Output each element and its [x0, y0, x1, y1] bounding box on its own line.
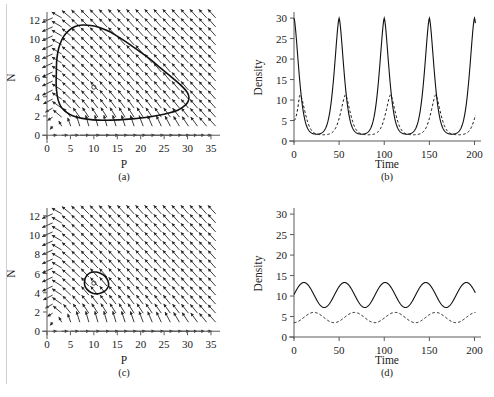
- xtick-label-b-3: 150: [421, 148, 438, 160]
- panel-caption-d: (d): [381, 367, 394, 379]
- yaxis-title-b: Density: [252, 59, 265, 95]
- xtick-label-a-7: 35: [205, 142, 217, 154]
- xtick-label-a-1: 5: [68, 142, 74, 154]
- yaxis-title-d: Density: [252, 255, 265, 291]
- ytick-label-b-3: 15: [276, 74, 288, 86]
- xtick-label-b-1: 50: [334, 148, 346, 160]
- xtick-label-c-7: 35: [205, 338, 217, 350]
- xtick-label-a-6: 30: [182, 142, 194, 154]
- xaxis-title-c: P: [121, 354, 127, 366]
- figure-svg: 02468101205101520253035PN(a)051015202530…: [0, 0, 494, 397]
- panel-caption-a: (a): [118, 171, 130, 183]
- xtick-label-a-0: 0: [44, 142, 50, 154]
- ytick-label-b-1: 5: [282, 115, 288, 127]
- panel-caption-c: (c): [118, 367, 130, 379]
- ytick-label-c-5: 10: [29, 229, 41, 241]
- ytick-label-a-1: 2: [35, 110, 41, 122]
- xtick-label-a-4: 20: [135, 142, 147, 154]
- xtick-label-c-4: 20: [135, 338, 147, 350]
- ytick-label-b-6: 30: [276, 12, 288, 24]
- ytick-label-a-0: 0: [35, 129, 41, 141]
- ytick-label-d-3: 15: [276, 270, 288, 282]
- ytick-label-d-1: 5: [282, 311, 288, 323]
- page-edge-line: [6, 4, 7, 384]
- xtick-label-b-4: 200: [466, 148, 483, 160]
- xtick-label-c-1: 5: [68, 338, 74, 350]
- ytick-label-c-4: 8: [35, 248, 41, 260]
- panel-caption-b: (b): [381, 171, 394, 183]
- series-predator-b: [294, 95, 475, 135]
- ytick-label-a-4: 8: [35, 52, 41, 64]
- ytick-label-d-2: 10: [276, 290, 288, 302]
- figure-container: 02468101205101520253035PN(a)051015202530…: [0, 0, 494, 397]
- ytick-label-a-6: 12: [29, 14, 40, 26]
- xtick-label-c-2: 10: [88, 338, 100, 350]
- field-arrow-head: [50, 322, 53, 326]
- field-arrow-head: [73, 108, 76, 112]
- series-predator-d: [294, 312, 475, 322]
- xtick-label-c-0: 0: [44, 338, 50, 350]
- ytick-label-d-6: 30: [276, 208, 288, 220]
- xtick-label-d-4: 200: [466, 344, 483, 356]
- ytick-label-d-0: 0: [282, 331, 288, 343]
- xtick-label-d-1: 50: [334, 344, 346, 356]
- ytick-label-c-0: 0: [35, 325, 41, 337]
- ytick-label-c-6: 12: [29, 210, 40, 222]
- xaxis-title-a: P: [121, 158, 127, 170]
- ytick-label-c-1: 2: [35, 306, 41, 318]
- ytick-label-d-5: 25: [276, 229, 288, 241]
- xtick-label-c-3: 15: [112, 338, 124, 350]
- ytick-label-b-5: 25: [276, 33, 288, 45]
- series-prey-b: [294, 18, 475, 134]
- ytick-label-a-5: 10: [29, 33, 41, 45]
- ytick-label-b-2: 10: [276, 94, 288, 106]
- ytick-label-b-0: 0: [282, 135, 288, 147]
- field-arrow-head: [164, 108, 167, 112]
- field-arrow-head: [52, 297, 56, 300]
- panel-b: 051015202530050100150200TimeDensity(b): [252, 12, 483, 183]
- xtick-label-a-3: 15: [112, 142, 124, 154]
- field-arrow-head: [164, 304, 167, 308]
- panel-c: 02468101205101520253035PN(c): [5, 205, 220, 379]
- field-arrow-head: [52, 101, 56, 104]
- panel-d: 051015202530050100150200TimeDensity(d): [252, 208, 483, 379]
- field-arrow-head: [73, 304, 76, 308]
- xtick-label-c-5: 25: [159, 338, 171, 350]
- ytick-label-d-4: 20: [276, 249, 288, 261]
- panel-a: 02468101205101520253035PN(a): [5, 9, 220, 183]
- xtick-label-a-5: 25: [159, 142, 171, 154]
- series-prey-d: [294, 283, 475, 308]
- xtick-label-c-6: 30: [182, 338, 194, 350]
- ytick-label-a-3: 6: [35, 72, 41, 84]
- ytick-label-a-2: 4: [35, 91, 41, 103]
- field-arrow-head: [50, 126, 53, 130]
- xtick-label-a-2: 10: [88, 142, 100, 154]
- ytick-label-c-3: 6: [35, 268, 41, 280]
- xtick-label-b-0: 0: [291, 148, 297, 160]
- xaxis-title-b: Time: [375, 158, 399, 170]
- xaxis-title-d: Time: [375, 354, 399, 366]
- xtick-label-d-3: 150: [421, 344, 438, 356]
- xtick-label-d-0: 0: [291, 344, 297, 356]
- ytick-label-c-2: 4: [35, 287, 41, 299]
- ytick-label-b-4: 20: [276, 53, 288, 65]
